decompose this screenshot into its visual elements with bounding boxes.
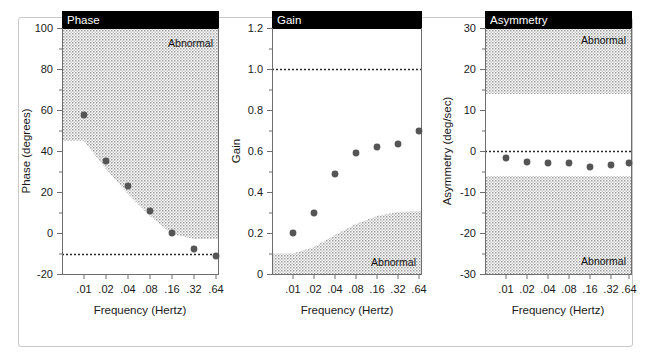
gain-x-tick-label: .08 — [348, 283, 363, 295]
asymmetry-x-ticks: .01 .02 .04 .08 .16 .32 .64 — [498, 274, 636, 295]
gain-y-tick-label: 0.8 — [248, 104, 263, 116]
figure-container: Abnormal Phase 100 80 60 40 20 — [0, 0, 652, 360]
asymmetry-y-axis-title: Asymmetry (deg/sec) — [441, 97, 453, 206]
phase-abnormal-label: Abnormal — [168, 37, 213, 49]
gain-x-tick-label: .32 — [390, 283, 405, 295]
asymmetry-y-tick-label: 10 — [464, 104, 476, 116]
gain-abnormal-label: Abnormal — [371, 256, 416, 268]
asymmetry-x-tick-label: .01 — [498, 283, 513, 295]
data-point — [374, 144, 381, 151]
gain-y-axis-title: Gain — [230, 139, 242, 163]
data-point — [626, 160, 633, 167]
asymmetry-y-tick-label: -20 — [460, 227, 476, 239]
data-point — [125, 183, 132, 190]
phase-x-tick-label: .04 — [120, 283, 135, 295]
asymmetry-x-axis-title: Frequency (Hertz) — [512, 304, 605, 316]
gain-y-tick-label: 1.2 — [248, 22, 263, 34]
gain-x-ticks: .01 .02 .04 .08 .16 .32 .64 — [285, 274, 426, 295]
data-point — [395, 141, 402, 148]
asymmetry-x-tick-label: .64 — [621, 283, 636, 295]
data-point — [587, 164, 594, 171]
data-point — [191, 246, 198, 253]
asymmetry-y-tick-label: 0 — [470, 145, 476, 157]
phase-x-tick-label: .32 — [186, 283, 201, 295]
data-point — [169, 230, 176, 237]
data-point — [566, 160, 573, 167]
asymmetry-x-tick-label: .32 — [603, 283, 618, 295]
phase-y-axis-title: Phase (degrees) — [20, 108, 32, 193]
phase-y-tick-label: 20 — [41, 186, 53, 198]
phase-x-axis-title: Frequency (Hertz) — [94, 304, 187, 316]
phase-y-tick-label: 100 — [35, 22, 53, 34]
data-point — [81, 112, 88, 119]
data-point — [332, 171, 339, 178]
phase-x-tick-label: .16 — [164, 283, 179, 295]
asymmetry-x-tick-label: .16 — [582, 283, 597, 295]
gain-y-tick-label: 0.6 — [248, 145, 263, 157]
gain-chart: Abnormal Gain 1.2 1.0 0.8 0.6 0.4 0.2 — [212, 0, 432, 330]
asymmetry-y-tick-label: -30 — [460, 268, 476, 280]
phase-x-tick-label: .02 — [98, 283, 113, 295]
gain-y-tick-label: 0.4 — [248, 186, 263, 198]
panel-phase: Abnormal Phase 100 80 60 40 20 — [0, 0, 230, 330]
panel-gain: Abnormal Gain 1.2 1.0 0.8 0.6 0.4 0.2 — [212, 0, 432, 330]
asymmetry-y-tick-label: 30 — [464, 22, 476, 34]
asymmetry-y-tick-label: 20 — [464, 63, 476, 75]
data-point — [103, 158, 110, 165]
data-point — [608, 162, 615, 169]
gain-y-tick-label: 0.2 — [248, 227, 263, 239]
gain-x-tick-label: .16 — [369, 283, 384, 295]
phase-y-tick-label: 80 — [41, 63, 53, 75]
phase-chart: Abnormal Phase 100 80 60 40 20 — [0, 0, 230, 330]
data-point — [290, 230, 297, 237]
asymmetry-title: Asymmetry — [490, 14, 548, 26]
gain-x-tick-label: .01 — [285, 283, 300, 295]
gain-x-tick-label: .04 — [327, 283, 342, 295]
gain-x-tick-label: .02 — [306, 283, 321, 295]
asymmetry-abnormal-label-upper: Abnormal — [581, 34, 626, 46]
phase-x-tick-label: .01 — [76, 283, 91, 295]
asymmetry-x-tick-label: .08 — [561, 283, 576, 295]
phase-y-tick-label: 40 — [41, 145, 53, 157]
panel-asymmetry: Abnormal Abnormal Asymmetry 30 20 10 0 -… — [420, 0, 652, 330]
asymmetry-y-ticks: 30 20 10 0 -10 -20 -30 — [460, 22, 485, 280]
phase-y-tick-label: 0 — [47, 227, 53, 239]
asymmetry-x-tick-label: .04 — [540, 283, 555, 295]
gain-y-tick-label: 0 — [257, 268, 263, 280]
data-point — [147, 208, 154, 215]
data-point — [545, 160, 552, 167]
phase-y-tick-label: 60 — [41, 104, 53, 116]
data-point — [524, 159, 531, 166]
phase-title: Phase — [67, 14, 100, 26]
asymmetry-chart: Abnormal Abnormal Asymmetry 30 20 10 0 -… — [420, 0, 652, 330]
gain-x-axis-title: Frequency (Hertz) — [301, 304, 394, 316]
asymmetry-abnormal-label-lower: Abnormal — [581, 255, 626, 267]
gain-title: Gain — [277, 14, 301, 26]
data-point — [353, 150, 360, 157]
asymmetry-x-tick-label: .02 — [519, 283, 534, 295]
phase-y-ticks: 100 80 60 40 20 0 -20 — [35, 22, 62, 280]
asymmetry-y-tick-label: -10 — [460, 186, 476, 198]
gain-y-tick-label: 1.0 — [248, 63, 263, 75]
phase-x-tick-label: .08 — [142, 283, 157, 295]
phase-y-tick-label: -20 — [37, 268, 53, 280]
data-point — [503, 155, 510, 162]
phase-x-ticks: .01 .02 .04 .08 .16 .32 .64 — [76, 274, 223, 295]
gain-y-ticks: 1.2 1.0 0.8 0.6 0.4 0.2 0 — [248, 22, 272, 280]
data-point — [311, 210, 318, 217]
